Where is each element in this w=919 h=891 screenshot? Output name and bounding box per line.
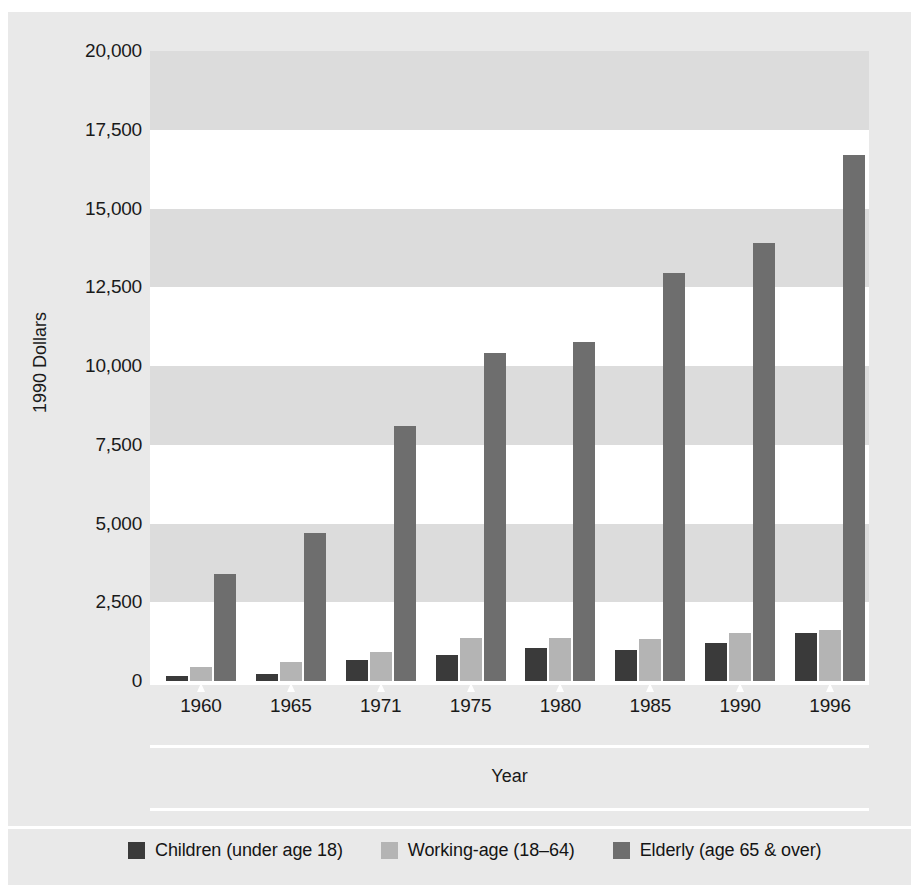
legend-label: Elderly (age 65 & over)	[640, 840, 822, 861]
x-tick-label-1980: 1980	[515, 695, 605, 717]
bar-group-1996	[795, 51, 865, 681]
divider-rule	[8, 826, 911, 829]
x-tick-label-1990: 1990	[695, 695, 785, 717]
bar-groups	[150, 51, 869, 681]
y-tick-label: 17,500	[42, 119, 142, 141]
bar-1980-series-1	[525, 648, 547, 681]
bar-1975-series-1	[436, 655, 458, 681]
x-tick-label-1960: 1960	[156, 695, 246, 717]
bar-1985-series-1	[615, 650, 637, 681]
x-tick-label-1965: 1965	[246, 695, 336, 717]
bar-group-1965	[256, 51, 326, 681]
chart-legend: Children (under age 18)Working-age (18–6…	[128, 840, 821, 861]
bar-1990-series-2	[729, 633, 751, 682]
bar-1960-series-2	[190, 667, 212, 681]
y-tick-label: 12,500	[42, 276, 142, 298]
y-tick-label: 15,000	[42, 198, 142, 220]
x-tick-1971	[377, 683, 385, 692]
bar-group-1975	[436, 51, 506, 681]
divider-rule	[150, 745, 869, 748]
bar-1996-series-1	[795, 633, 817, 682]
y-tick-label: 7,500	[42, 434, 142, 456]
x-tick-label-1996: 1996	[785, 695, 875, 717]
bar-1990-series-1	[705, 643, 727, 681]
y-axis-title: 1990 Dollars	[30, 283, 51, 443]
x-tick-1960	[197, 683, 205, 692]
bar-1980-series-2	[549, 638, 571, 681]
bar-1985-series-3	[663, 273, 685, 681]
y-tick-label: 2,500	[42, 591, 142, 613]
legend-swatch-icon	[381, 842, 398, 859]
y-tick-label: 10,000	[42, 355, 142, 377]
legend-label: Working-age (18–64)	[408, 840, 575, 861]
legend-item-1[interactable]: Children (under age 18)	[128, 840, 343, 861]
x-tick-label-1971: 1971	[336, 695, 426, 717]
legend-swatch-icon	[128, 842, 145, 859]
x-tick-1985	[646, 683, 654, 692]
bar-group-1990	[705, 51, 775, 681]
bar-1965-series-1	[256, 674, 278, 681]
x-tick-1980	[556, 683, 564, 692]
bar-1980-series-3	[573, 342, 595, 681]
bar-group-1980	[525, 51, 595, 681]
divider-rule	[150, 808, 869, 811]
bar-1996-series-2	[819, 630, 841, 681]
bar-1971-series-3	[394, 426, 416, 681]
x-axis-title: Year	[150, 766, 869, 787]
bar-group-1985	[615, 51, 685, 681]
bar-1990-series-3	[753, 243, 775, 681]
bar-1960-series-3	[214, 574, 236, 681]
x-tick-1990	[736, 683, 744, 692]
legend-swatch-icon	[613, 842, 630, 859]
x-axis-labels: 19601965197119751980198519901996	[150, 695, 869, 725]
bar-1985-series-2	[639, 639, 661, 681]
x-tick-1996	[826, 683, 834, 692]
legend-label: Children (under age 18)	[155, 840, 343, 861]
legend-item-2[interactable]: Working-age (18–64)	[381, 840, 575, 861]
bar-1971-series-2	[370, 652, 392, 681]
bar-1975-series-2	[460, 638, 482, 681]
chart-figure: 20,000 17,500 15,000 12,500 10,000 7,500…	[0, 0, 919, 891]
y-tick-label: 0	[42, 670, 142, 692]
y-tick-label: 5,000	[42, 513, 142, 535]
y-tick-label: 20,000	[42, 40, 142, 62]
x-tick-1965	[287, 683, 295, 692]
bar-1996-series-3	[843, 155, 865, 681]
bar-1965-series-3	[304, 533, 326, 681]
bar-1971-series-1	[346, 660, 368, 681]
bar-1965-series-2	[280, 662, 302, 681]
bar-group-1960	[166, 51, 236, 681]
x-tick-label-1985: 1985	[605, 695, 695, 717]
bar-group-1971	[346, 51, 416, 681]
x-tick-1975	[467, 683, 475, 692]
legend-item-3[interactable]: Elderly (age 65 & over)	[613, 840, 822, 861]
x-tick-label-1975: 1975	[426, 695, 516, 717]
bar-1975-series-3	[484, 353, 506, 681]
x-axis-ticks	[150, 683, 869, 695]
